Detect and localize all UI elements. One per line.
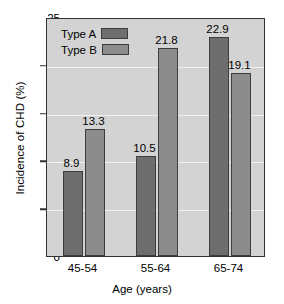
bar-type-a-45-54: [63, 171, 83, 256]
bar-type-a-65-74: [209, 37, 229, 256]
chd-incidence-bar-chart: Incidence of CHD (%) 0510152025 Type A T…: [0, 0, 284, 304]
legend-label-type-b: Type B: [61, 44, 97, 56]
bar-value-label: 10.5: [133, 142, 155, 154]
bar-value-label: 13.3: [82, 115, 104, 127]
bar-value-label: 8.9: [64, 157, 80, 169]
bar-type-b-45-54: [85, 129, 105, 256]
x-axis-title: Age (years): [0, 283, 284, 295]
x-axis-tick-label: 55-64: [141, 262, 170, 274]
bar-value-label: 19.1: [228, 59, 250, 71]
bar-value-label: 22.9: [206, 23, 228, 35]
legend-swatch-type-a: [101, 28, 128, 39]
bar-type-a-55-64: [136, 156, 156, 256]
x-axis-tick-label: 45-54: [68, 262, 97, 274]
plot-area: Type A Type B: [46, 18, 265, 257]
legend-swatch-type-b: [102, 44, 129, 55]
legend-item-type-b: Type B: [61, 42, 129, 57]
legend-item-type-a: Type A: [61, 26, 129, 41]
x-axis-tick-label: 65-74: [214, 262, 243, 274]
bar-type-b-65-74: [231, 73, 251, 256]
y-axis-title: Incidence of CHD (%): [14, 38, 26, 238]
legend: Type A Type B: [61, 26, 129, 58]
legend-label-type-a: Type A: [61, 28, 96, 40]
bar-value-label: 21.8: [155, 34, 177, 46]
bar-type-b-55-64: [158, 48, 178, 256]
